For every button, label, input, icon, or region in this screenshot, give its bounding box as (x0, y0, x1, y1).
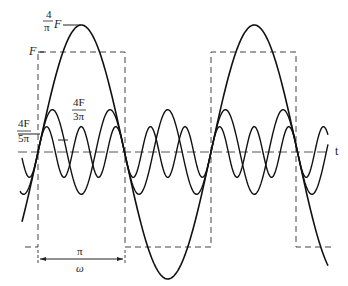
fundamental-amp-F: F (53, 17, 62, 31)
half-period-num: π (77, 245, 83, 257)
axis-label-t: t (335, 144, 339, 158)
third-amp-den: 3π (73, 110, 85, 122)
square-wave-diagram: 4 π F F 4F 3π 4F 5π t π ω (0, 0, 348, 286)
third-amp-num: 4F (73, 96, 85, 108)
square-wave (25, 52, 335, 247)
half-period-den: ω (76, 262, 84, 274)
arrow-left-icon (40, 257, 46, 261)
fifth-amp-num: 4F (18, 117, 30, 129)
arrow-right-icon (117, 257, 123, 261)
square-amp-label: F (28, 44, 37, 58)
fundamental-amp-den: π (44, 21, 50, 33)
fifth-amp-den: 5π (18, 132, 30, 144)
fundamental-amp-num: 4 (46, 8, 52, 20)
